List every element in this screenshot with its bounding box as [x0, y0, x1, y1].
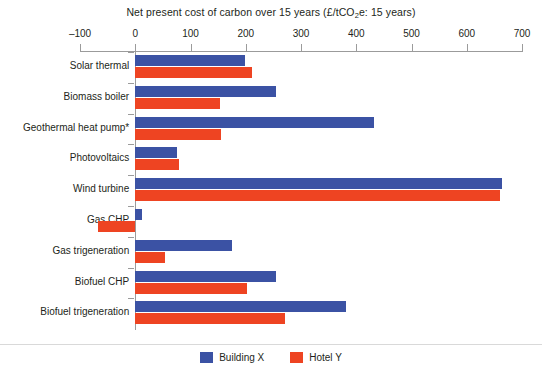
bar-building-x[interactable] — [135, 271, 276, 282]
category-tick — [128, 83, 134, 84]
category-tick — [128, 52, 134, 53]
legend-label-building-x: Building X — [219, 352, 264, 363]
bar-hotel-y[interactable] — [135, 129, 221, 140]
bar-building-x[interactable] — [135, 178, 502, 189]
bar-hotel-y[interactable] — [135, 159, 179, 170]
category-tick — [128, 206, 134, 207]
category-tick — [128, 298, 134, 299]
x-tick-100 — [191, 44, 192, 52]
axis-cap-right — [522, 45, 523, 52]
x-tick-label-600: 600 — [458, 28, 475, 39]
chart-row: Solar thermal — [80, 52, 522, 83]
bar-hotel-y[interactable] — [135, 98, 220, 109]
legend-label-hotel-y: Hotel Y — [309, 352, 342, 363]
axis-cap-left — [80, 45, 81, 52]
legend-item-building-x[interactable]: Building X — [200, 352, 264, 363]
chart-row: Biofuel trigeneration — [80, 298, 522, 329]
x-tick-600 — [467, 44, 468, 52]
legend-swatch-hotel-y — [290, 352, 303, 363]
x-tick-300 — [301, 44, 302, 52]
category-tick — [128, 144, 134, 145]
chart-title: Net present cost of carbon over 15 years… — [0, 6, 542, 18]
x-tick-label-400: 400 — [348, 28, 365, 39]
bar-building-x[interactable] — [135, 240, 232, 251]
chart-row: Biomass boiler — [80, 83, 522, 114]
chart-legend: Building X Hotel Y — [0, 352, 542, 363]
plot-area: Solar thermalBiomass boilerGeothermal he… — [80, 52, 522, 330]
category-tick — [128, 268, 134, 269]
bar-hotel-y[interactable] — [135, 313, 285, 324]
category-tick — [128, 114, 134, 115]
x-tick-0 — [135, 44, 136, 52]
category-label: Geothermal heat pump* — [0, 122, 129, 133]
legend-item-hotel-y[interactable]: Hotel Y — [290, 352, 342, 363]
category-label: Biomass boiler — [0, 91, 129, 102]
category-label: Biofuel CHP — [0, 276, 129, 287]
bar-building-x[interactable] — [135, 117, 374, 128]
legend-swatch-building-x — [200, 352, 213, 363]
category-label: Biofuel trigeneration — [0, 306, 129, 317]
chart-container: Net present cost of carbon over 15 years… — [0, 0, 542, 379]
x-tick-label-700: 700 — [514, 28, 531, 39]
chart-title-text-before: Net present cost of carbon over 15 years… — [126, 6, 354, 18]
x-tick-label-100: 100 — [182, 28, 199, 39]
chart-title-subscript: 2 — [355, 11, 359, 20]
bar-building-x[interactable] — [135, 147, 177, 158]
bar-building-x[interactable] — [135, 86, 276, 97]
x-tick-label-200: 200 — [237, 28, 254, 39]
x-tick-label-0: 0 — [133, 28, 139, 39]
x-tick-label--100: –100 — [69, 28, 91, 39]
chart-row: Gas trigeneration — [80, 237, 522, 268]
category-label: Gas trigeneration — [0, 245, 129, 256]
category-tick — [128, 175, 134, 176]
chart-row: Photovoltaics — [80, 144, 522, 175]
bar-building-x[interactable] — [135, 209, 142, 220]
chart-divider — [0, 344, 542, 345]
x-tick-label-500: 500 — [403, 28, 420, 39]
x-tick-400 — [356, 44, 357, 52]
bar-building-x[interactable] — [135, 301, 346, 312]
chart-title-text-after: e: 15 years) — [359, 6, 416, 18]
bar-hotel-y[interactable] — [135, 67, 252, 78]
bar-hotel-y[interactable] — [135, 190, 500, 201]
chart-row: Gas CHP — [80, 206, 522, 237]
bar-hotel-y[interactable] — [98, 221, 136, 232]
bar-hotel-y[interactable] — [135, 283, 247, 294]
chart-row: Wind turbine — [80, 175, 522, 206]
category-label: Photovoltaics — [0, 152, 129, 163]
x-tick-500 — [412, 44, 413, 52]
x-tick-label-300: 300 — [293, 28, 310, 39]
category-label: Wind turbine — [0, 183, 129, 194]
x-tick-200 — [246, 44, 247, 52]
chart-row: Geothermal heat pump* — [80, 114, 522, 145]
bar-building-x[interactable] — [135, 55, 245, 66]
category-tick — [128, 237, 134, 238]
bar-hotel-y[interactable] — [135, 252, 164, 263]
chart-row: Biofuel CHP — [80, 268, 522, 299]
category-label: Solar thermal — [0, 60, 129, 71]
